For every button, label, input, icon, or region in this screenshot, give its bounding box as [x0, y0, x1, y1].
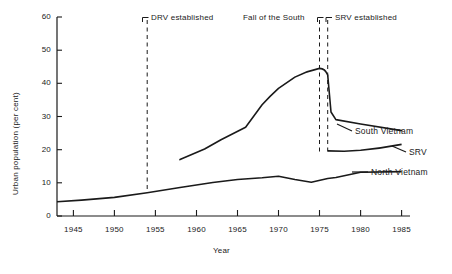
- y-tick-marks: [57, 17, 62, 216]
- x-tick-label-1965: 1965: [218, 226, 258, 234]
- fall-leader: [318, 18, 324, 23]
- y-tick-label-50: 50: [31, 46, 51, 54]
- y-tick-label-0: 0: [31, 212, 51, 220]
- y-tick-label-60: 60: [31, 13, 51, 21]
- event-marker-lines: [147, 20, 328, 193]
- series-line-north-vietnam: [57, 172, 402, 202]
- series-label-north-vietnam: North Vietnam: [371, 168, 428, 177]
- x-tick-label-1960: 1960: [177, 226, 217, 234]
- series-line-srv: [328, 144, 402, 151]
- series-label-south-vietnam: South Vietnam: [355, 127, 413, 136]
- x-tick-label-1985: 1985: [382, 226, 422, 234]
- x-tick-label-1950: 1950: [94, 226, 134, 234]
- south-vietnam-callout-leader: [337, 124, 352, 131]
- y-tick-label-10: 10: [31, 179, 51, 187]
- x-tick-label-1955: 1955: [135, 226, 175, 234]
- y-tick-label-20: 20: [31, 146, 51, 154]
- series-label-srv: SRV: [409, 148, 427, 157]
- srv-leader: [326, 18, 332, 23]
- x-axis-title: Year: [213, 247, 230, 255]
- annotation-drv-established: DRV established: [151, 14, 213, 22]
- y-axis-title: Urban population (per cent): [12, 92, 20, 195]
- x-tick-label-1975: 1975: [300, 226, 340, 234]
- annotation-fall-of-the-south: Fall of the South: [243, 14, 305, 22]
- x-tick-label-1970: 1970: [259, 226, 299, 234]
- annotation-srv-established: SRV established: [335, 14, 397, 22]
- series-line-south-vietnam: [180, 68, 402, 159]
- x-tick-label-1945: 1945: [53, 226, 93, 234]
- srv-callout-leader: [392, 146, 406, 152]
- x-tick-label-1980: 1980: [341, 226, 381, 234]
- y-tick-label-40: 40: [31, 79, 51, 87]
- chart-figure: Urban population (per cent) Year 60 50 4…: [0, 0, 452, 274]
- y-tick-label-30: 30: [31, 113, 51, 121]
- x-tick-marks: [73, 210, 401, 216]
